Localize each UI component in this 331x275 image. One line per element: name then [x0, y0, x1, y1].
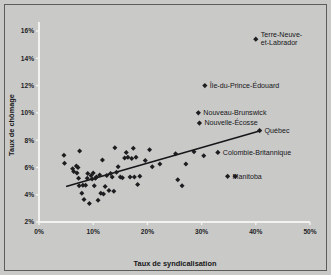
data-point: [124, 150, 129, 155]
data-point: [143, 158, 148, 163]
data-point: [81, 197, 86, 202]
data-point-labeled: [202, 83, 207, 88]
y-tick-label: 6%: [24, 164, 34, 171]
data-point: [92, 183, 97, 188]
x-tick-label: 10%: [87, 228, 100, 235]
y-tick-label: 16%: [21, 27, 34, 34]
data-point: [131, 146, 136, 151]
data-point: [201, 153, 206, 158]
x-tick-label: 20%: [141, 228, 154, 235]
data-point: [183, 162, 188, 167]
data-point-labeled: [225, 174, 230, 179]
data-point: [175, 177, 180, 182]
data-point-label: Nouveau-Brunswick: [203, 109, 267, 117]
data-point: [87, 201, 92, 206]
data-point-label: Nouvelle-Écosse: [204, 118, 257, 127]
data-point-label: Colombie-Britannique: [223, 149, 291, 157]
data-point: [135, 182, 140, 187]
data-point: [132, 174, 137, 179]
data-point: [83, 183, 88, 188]
scatter-plot: 2%4%6%8%10%12%14%16%0%10%20%30%40%50% Te…: [0, 0, 331, 275]
data-point-labeled: [196, 110, 201, 115]
x-tick-label: 50%: [303, 228, 316, 235]
data-point: [114, 170, 119, 175]
x-tick-label: 30%: [195, 228, 208, 235]
data-point: [79, 191, 84, 196]
data-point-label: Québec: [265, 127, 290, 135]
data-point-label: Terre-Neuve-: [261, 31, 303, 39]
data-point: [137, 174, 142, 179]
data-point: [111, 189, 116, 194]
data-point: [147, 147, 152, 152]
data-point: [77, 149, 82, 154]
data-point: [61, 153, 66, 158]
data-point: [116, 164, 121, 169]
data-point: [128, 174, 133, 179]
x-tick-label: 40%: [249, 228, 262, 235]
x-tick-label: 0%: [34, 228, 44, 235]
data-point-labeled: [215, 150, 220, 155]
y-tick-label: 12%: [21, 82, 34, 89]
y-tick-label: 2%: [24, 218, 34, 225]
data-point-label: Île-du-Prince-Édouard: [209, 81, 279, 90]
x-axis-title: Taux de syndicalisation: [134, 259, 217, 268]
data-point: [100, 157, 105, 162]
y-tick-label: 8%: [24, 137, 34, 144]
y-tick-label: 14%: [21, 55, 34, 62]
data-point: [112, 145, 117, 150]
data-point-labeled: [253, 37, 258, 42]
data-point: [62, 161, 67, 166]
data-point: [150, 164, 155, 169]
data-point: [96, 198, 101, 203]
y-tick-label: 10%: [21, 109, 34, 116]
data-point: [103, 184, 108, 189]
data-point: [134, 155, 139, 160]
data-point-label: Manitoba: [233, 173, 262, 181]
y-tick-label: 4%: [24, 191, 34, 198]
point-labels-layer: Terre-Neuve-et-LabradorÎle-du-Prince-Édo…: [203, 31, 302, 181]
data-point: [157, 162, 162, 167]
data-point-labeled: [197, 120, 202, 125]
scatter-plot-canvas: 2%4%6%8%10%12%14%16%0%10%20%30%40%50% Te…: [0, 0, 331, 275]
data-point: [180, 183, 185, 188]
axes-layer: [36, 22, 310, 225]
y-axis-title: Taux de chômage: [7, 94, 16, 156]
data-point: [76, 176, 81, 181]
data-point: [106, 188, 111, 193]
data-point-label: et-Labrador: [261, 39, 298, 47]
chart-figure: 2%4%6%8%10%12%14%16%0%10%20%30%40%50% Te…: [0, 0, 331, 275]
